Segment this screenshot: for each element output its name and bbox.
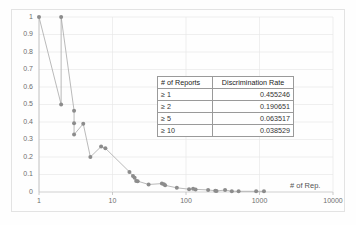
y-tick-label: 0.1 (13, 170, 33, 177)
x-tick-label: 10 (98, 197, 128, 204)
column-header-rate: Discrimination Rate (213, 77, 294, 89)
y-tick-label: 0.7 (13, 65, 33, 72)
cell-rate: 0.038529 (213, 125, 294, 137)
y-tick-label: 0.5 (13, 100, 33, 107)
y-tick-label: 1 (13, 13, 33, 20)
cell-rate: 0.455246 (213, 89, 294, 101)
discrimination-rate-table: # of Reports Discrimination Rate ≥ 10.45… (157, 76, 294, 137)
y-tick-label: 0.9 (13, 30, 33, 37)
column-header-reports: # of Reports (158, 77, 213, 89)
y-tick-label: 0.6 (13, 83, 33, 90)
y-tick-label: 0.3 (13, 135, 33, 142)
x-tick-label: 1 (24, 197, 54, 204)
x-axis-title: # of Rep. (290, 181, 320, 190)
table-header: # of Reports Discrimination Rate (158, 77, 294, 89)
cell-rate: 0.190651 (213, 101, 294, 113)
cell-reports: ≥ 2 (158, 101, 213, 113)
table-header-row: # of Reports Discrimination Rate (158, 77, 294, 89)
table-row: ≥ 50.063517 (158, 113, 294, 125)
cell-rate: 0.063517 (213, 113, 294, 125)
x-tick-label: 1000 (245, 197, 275, 204)
chart-figure: 00.10.20.30.40.50.60.70.80.91 1101001000… (0, 0, 356, 225)
y-tick-label: 0.4 (13, 118, 33, 125)
y-tick-label: 0.8 (13, 48, 33, 55)
table-row: ≥ 100.038529 (158, 125, 294, 137)
y-tick-label: 0.2 (13, 153, 33, 160)
cell-reports: ≥ 10 (158, 125, 213, 137)
table-row: ≥ 10.455246 (158, 89, 294, 101)
cell-reports: ≥ 1 (158, 89, 213, 101)
x-tick-label: 10000 (318, 197, 348, 204)
cell-reports: ≥ 5 (158, 113, 213, 125)
x-tick-label: 100 (171, 197, 201, 204)
y-tick-label: 0 (13, 188, 33, 195)
table-row: ≥ 20.190651 (158, 101, 294, 113)
table-body: ≥ 10.455246≥ 20.190651≥ 50.063517≥ 100.0… (158, 89, 294, 137)
